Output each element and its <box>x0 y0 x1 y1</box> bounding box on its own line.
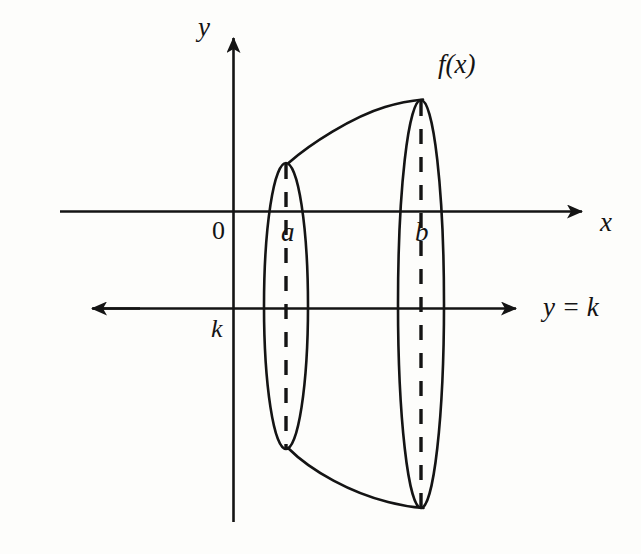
y-axis-label: y <box>198 14 210 41</box>
function-curve-label: f(x) <box>438 51 475 78</box>
math-diagram-svg <box>0 0 641 554</box>
fx-lower-curve <box>288 448 424 508</box>
figure-canvas: y f(x) x 0 a b k y = k <box>0 0 641 554</box>
fx-upper-curve <box>289 100 424 164</box>
origin-label: 0 <box>212 218 225 244</box>
x-axis-label: x <box>600 209 612 236</box>
left-bound-label-a: a <box>281 219 295 246</box>
revolution-axis-label: y = k <box>543 294 599 321</box>
revolution-axis-value-label: k <box>211 316 223 342</box>
right-bound-label-b: b <box>415 219 429 246</box>
